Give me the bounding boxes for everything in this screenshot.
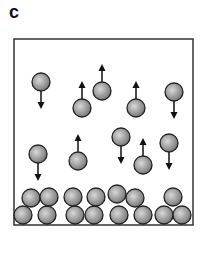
particle <box>134 156 152 174</box>
particle <box>155 206 173 224</box>
arrow-head-icon <box>38 102 45 109</box>
particle <box>85 206 103 224</box>
particle-diagram <box>0 0 205 253</box>
particle <box>87 188 105 206</box>
arrow-head-icon <box>75 134 82 141</box>
particle <box>134 206 152 224</box>
particle <box>73 99 91 117</box>
particle <box>14 206 32 224</box>
arrow-head-icon <box>171 112 178 119</box>
particle <box>69 152 87 170</box>
particle <box>112 128 130 146</box>
arrow-head-icon <box>140 138 147 145</box>
particle <box>108 185 126 203</box>
particle <box>40 188 58 206</box>
particle <box>64 188 82 206</box>
particle <box>164 188 182 206</box>
particle <box>66 206 84 224</box>
arrow-head-icon <box>79 81 86 88</box>
particle <box>32 73 50 91</box>
particle <box>127 99 145 117</box>
particle <box>93 82 111 100</box>
arrow-head-icon <box>133 81 140 88</box>
particle <box>38 206 56 224</box>
particle <box>29 145 47 163</box>
arrow-head-icon <box>118 157 125 164</box>
arrow-head-icon <box>166 163 173 170</box>
particle <box>110 206 128 224</box>
arrow-head-icon <box>99 64 106 71</box>
particle <box>165 83 183 101</box>
particle <box>126 189 144 207</box>
particle <box>173 206 191 224</box>
particle <box>160 134 178 152</box>
particle <box>22 189 40 207</box>
arrow-head-icon <box>35 174 42 181</box>
